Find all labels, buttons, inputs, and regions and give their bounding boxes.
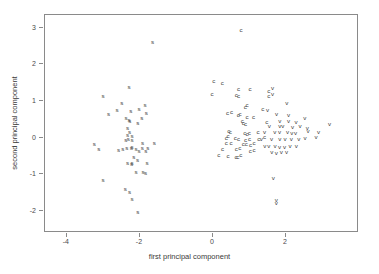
data-point: c: [237, 136, 240, 142]
data-point: s: [134, 169, 137, 175]
data-point: s: [151, 39, 154, 45]
data-point: v: [294, 119, 297, 125]
data-point: s: [128, 84, 131, 90]
data-point: v: [268, 123, 271, 129]
data-point: v: [287, 118, 290, 124]
data-point: v: [286, 129, 289, 135]
data-point: s: [115, 107, 118, 113]
data-point: s: [136, 209, 139, 215]
data-point: c: [244, 121, 247, 127]
data-point: v: [271, 90, 274, 96]
x-tick-mark: [66, 233, 67, 237]
data-point: s: [130, 196, 133, 202]
data-point: c: [261, 105, 264, 111]
data-point: v: [274, 142, 277, 148]
data-point: v: [285, 100, 288, 106]
data-point: s: [130, 145, 133, 151]
data-point: c: [252, 114, 255, 120]
data-point: s: [126, 160, 129, 166]
data-point: v: [275, 150, 278, 156]
data-point: s: [144, 148, 147, 154]
y-tick-mark: [39, 173, 43, 174]
data-point: s: [137, 105, 140, 111]
data-point: s: [145, 160, 148, 166]
data-point: c: [237, 93, 240, 99]
data-point: c: [217, 152, 220, 158]
data-point: c: [210, 91, 213, 97]
data-point: v: [289, 143, 292, 149]
data-point: v: [283, 136, 286, 142]
data-point: v: [272, 175, 275, 181]
data-point: c: [252, 146, 255, 152]
x-tick-label: -4: [63, 238, 69, 245]
data-point: s: [136, 157, 139, 163]
data-point: c: [249, 148, 252, 154]
data-point: v: [298, 123, 301, 129]
data-point: s: [141, 145, 144, 151]
data-point: v: [285, 149, 288, 155]
data-point: v: [275, 200, 278, 206]
data-point: v: [304, 135, 307, 141]
data-point: v: [297, 136, 300, 142]
y-tick-mark: [39, 27, 43, 28]
x-tick-mark: [285, 233, 286, 237]
data-point: s: [144, 170, 147, 176]
pca-scatter-figure: ssssssssssssssssssssssssssssssssssssssss…: [0, 0, 379, 274]
data-point: v: [263, 129, 266, 135]
x-tick-label: -2: [136, 238, 142, 245]
y-tick-mark: [39, 100, 43, 101]
data-point: v: [306, 128, 309, 134]
data-point: c: [226, 153, 229, 159]
data-point: c: [221, 146, 224, 152]
x-axis-label: first principal component: [0, 252, 379, 261]
y-tick-label: 1: [32, 97, 36, 104]
y-tick-label: 2: [32, 60, 36, 67]
data-point: s: [102, 177, 105, 183]
x-tick-mark: [139, 233, 140, 237]
data-point: v: [303, 115, 306, 121]
data-point: c: [245, 113, 248, 119]
data-point: c: [267, 93, 270, 99]
data-point: s: [130, 160, 133, 166]
y-tick-label: -2: [30, 207, 36, 214]
y-tick-mark: [39, 63, 43, 64]
data-point: c: [245, 141, 248, 147]
data-point: s: [145, 110, 148, 116]
y-tick-mark: [39, 210, 43, 211]
data-point: c: [248, 86, 251, 92]
data-point: s: [121, 146, 124, 152]
data-point: c: [226, 110, 229, 116]
data-point: c: [225, 140, 228, 146]
x-tick-label: 2: [283, 238, 287, 245]
data-point: v: [278, 136, 281, 142]
data-point: v: [263, 143, 266, 149]
data-point: s: [107, 111, 110, 117]
x-tick-label: 0: [210, 238, 214, 245]
data-point: s: [117, 146, 120, 152]
y-tick-label: 3: [32, 23, 36, 30]
data-point: c: [244, 104, 247, 110]
data-point: s: [137, 148, 140, 154]
data-point: v: [314, 134, 317, 140]
data-point: s: [140, 115, 143, 121]
data-point: c: [239, 152, 242, 158]
data-point: s: [144, 102, 147, 108]
y-tick-mark: [39, 137, 43, 138]
x-tick-mark: [212, 233, 213, 237]
data-point: c: [237, 112, 240, 118]
data-point: s: [125, 145, 128, 151]
data-point: c: [212, 78, 215, 84]
data-point: s: [124, 186, 127, 192]
data-point: c: [229, 140, 232, 146]
data-point: s: [129, 108, 132, 114]
data-point: v: [266, 107, 269, 113]
y-axis-label: second principal component: [10, 76, 19, 169]
data-point: s: [97, 146, 100, 152]
data-points-layer: ssssssssssssssssssssssssssssssssssssssss…: [44, 14, 358, 232]
data-point: c: [221, 79, 224, 85]
data-point: v: [328, 121, 331, 127]
data-point: s: [153, 140, 156, 146]
data-point: v: [270, 149, 273, 155]
data-point: c: [240, 27, 243, 33]
data-point: s: [93, 141, 96, 147]
